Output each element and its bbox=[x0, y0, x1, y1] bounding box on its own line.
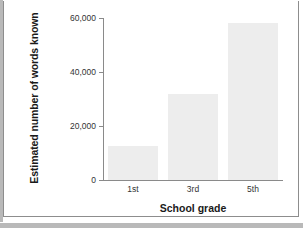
y-tick-label: 0 bbox=[91, 176, 96, 185]
x-tick-label: 5th bbox=[228, 184, 278, 194]
y-axis-title: Estimated number of words known bbox=[28, 8, 40, 188]
x-tick-label: 3rd bbox=[168, 184, 218, 194]
x-tick-label: 1st bbox=[108, 184, 158, 194]
bar bbox=[168, 94, 218, 180]
y-tick-label: 60,000 bbox=[70, 14, 96, 23]
y-axis-line bbox=[103, 18, 104, 181]
y-tick-mark bbox=[99, 18, 104, 19]
y-tick-mark bbox=[99, 72, 104, 73]
y-tick-mark bbox=[99, 126, 104, 127]
y-tick-label: 40,000 bbox=[70, 68, 96, 77]
y-tick-mark bbox=[99, 180, 104, 181]
bar bbox=[228, 23, 278, 180]
x-axis-line bbox=[103, 180, 283, 181]
y-tick-label: 20,000 bbox=[70, 122, 96, 131]
bar bbox=[108, 146, 158, 180]
x-axis-title: School grade bbox=[103, 202, 283, 214]
bar-chart: Estimated number of words known 020,0004… bbox=[0, 0, 303, 228]
